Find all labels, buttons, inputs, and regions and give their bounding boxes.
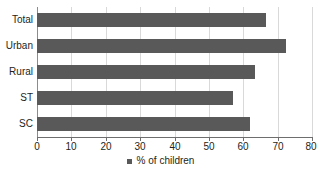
bar-series bbox=[37, 7, 312, 137]
bar-urban bbox=[37, 39, 286, 53]
tick-label-0: 0 bbox=[34, 141, 40, 153]
category-label-sc: SC bbox=[0, 118, 33, 130]
tick-label-60: 60 bbox=[237, 141, 248, 153]
bar-slot-total bbox=[37, 7, 312, 33]
bar-sc bbox=[37, 117, 250, 131]
plot-area bbox=[37, 7, 312, 137]
tick-label-40: 40 bbox=[169, 141, 180, 153]
bar-slot-rural bbox=[37, 59, 312, 85]
bar-st bbox=[37, 91, 233, 105]
bar-slot-urban bbox=[37, 33, 312, 59]
bar-chart: Total Urban Rural ST SC bbox=[0, 0, 321, 170]
bar-total bbox=[37, 13, 266, 27]
legend: % of children bbox=[0, 155, 321, 167]
legend-entry-label: % of children bbox=[137, 155, 195, 167]
tick-label-30: 30 bbox=[134, 141, 145, 153]
tick-label-10: 10 bbox=[65, 141, 76, 153]
legend-square-marker-icon bbox=[127, 159, 132, 164]
gridline-80 bbox=[312, 7, 313, 137]
tick-label-70: 70 bbox=[272, 141, 283, 153]
category-axis-labels: Total Urban Rural ST SC bbox=[0, 7, 33, 137]
category-label-total: Total bbox=[0, 14, 33, 26]
bar-slot-sc bbox=[37, 111, 312, 137]
category-label-urban: Urban bbox=[0, 40, 33, 52]
bar-slot-st bbox=[37, 85, 312, 111]
tick-label-20: 20 bbox=[100, 141, 111, 153]
tick-label-80: 80 bbox=[305, 141, 316, 153]
bar-rural bbox=[37, 65, 255, 79]
tick-label-50: 50 bbox=[203, 141, 214, 153]
category-label-rural: Rural bbox=[0, 66, 33, 78]
category-label-st: ST bbox=[0, 92, 33, 104]
x-axis-tick-labels: 0 10 20 30 40 50 60 70 80 bbox=[0, 141, 321, 154]
